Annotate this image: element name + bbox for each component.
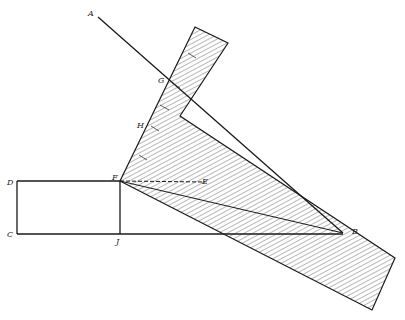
geometry-diagram: A G H F E D C J B	[0, 0, 405, 320]
label-f: F	[111, 173, 118, 182]
label-a: A	[87, 9, 94, 18]
label-h: H	[136, 121, 145, 130]
label-e: E	[201, 177, 208, 186]
label-c: C	[7, 230, 13, 239]
label-b: B	[351, 227, 358, 236]
label-g: G	[158, 76, 165, 85]
label-d: D	[6, 178, 14, 187]
label-j: J	[114, 237, 120, 246]
hatched-bar	[120, 27, 395, 310]
